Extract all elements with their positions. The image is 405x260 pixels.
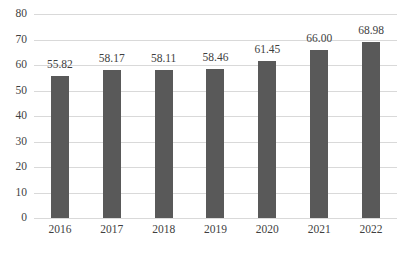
gridline <box>34 218 397 219</box>
y-axis-tick-label: 30 <box>16 136 28 148</box>
x-axis-tick-label: 2018 <box>152 224 175 236</box>
x-axis-tick-label: 2017 <box>100 224 123 236</box>
y-axis-tick-label: 60 <box>16 59 28 71</box>
x-axis-tick-label: 2016 <box>48 224 71 236</box>
x-axis-tick-label: 2019 <box>204 224 227 236</box>
y-axis-tick-label: 10 <box>16 187 28 199</box>
bar-value-label: 58.46 <box>203 52 229 64</box>
x-axis-tick-label: 2020 <box>256 224 279 236</box>
bar[interactable] <box>362 42 380 218</box>
bar-value-label: 55.82 <box>47 59 73 71</box>
x-axis-tick-label: 2021 <box>308 224 331 236</box>
y-axis-tick-label: 40 <box>16 110 28 122</box>
bar-slot: 58.11 <box>138 14 190 218</box>
bar-chart: 01020304050607080 55.8258.1758.1158.4661… <box>0 0 405 260</box>
bar-slot: 61.45 <box>241 14 293 218</box>
bar-slot: 66.00 <box>293 14 345 218</box>
bar-value-label: 66.00 <box>306 33 332 45</box>
y-axis-tick-label: 20 <box>16 161 28 173</box>
bar[interactable] <box>310 50 328 218</box>
y-axis-tick-label: 0 <box>21 212 27 224</box>
bar-value-label: 58.11 <box>151 53 176 65</box>
bar[interactable] <box>155 70 173 218</box>
bar-value-label: 68.98 <box>358 25 384 37</box>
bar[interactable] <box>103 70 121 218</box>
plot-area: 55.8258.1758.1158.4661.4566.0068.98 <box>34 14 397 218</box>
x-axis-tick-label: 2022 <box>360 224 383 236</box>
bar-value-label: 61.45 <box>254 44 280 56</box>
bar[interactable] <box>258 61 276 218</box>
y-axis-tick-label: 70 <box>16 34 28 46</box>
bar-value-label: 58.17 <box>99 53 125 65</box>
bar-slot: 58.17 <box>86 14 138 218</box>
y-axis: 01020304050607080 <box>0 0 34 260</box>
y-axis-tick-label: 80 <box>16 8 28 20</box>
bar-slot: 58.46 <box>190 14 242 218</box>
bar[interactable] <box>206 69 224 218</box>
bar[interactable] <box>51 76 69 218</box>
bar-slot: 55.82 <box>34 14 86 218</box>
x-axis: 2016201720182019202020212022 <box>34 224 397 242</box>
y-axis-tick-label: 50 <box>16 85 28 97</box>
bar-slot: 68.98 <box>345 14 397 218</box>
